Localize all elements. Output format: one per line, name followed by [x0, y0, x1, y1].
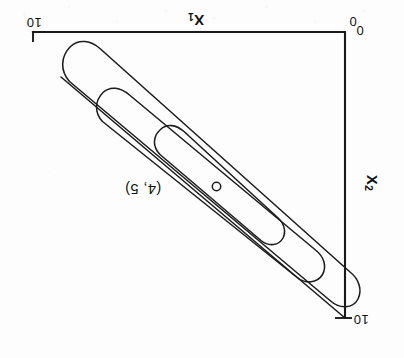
x2-axis-label-subscript: 2	[363, 185, 374, 191]
x2-max-tick-label: 10	[353, 312, 368, 327]
svg-text:(4, 5): (4, 5)	[125, 181, 161, 197]
svg-text:10: 10	[26, 15, 41, 30]
figure-canvas: X1 X2 10 0 0 10 (4, 5)	[0, 0, 404, 358]
x1-axis-label-subscript: 1	[188, 11, 194, 22]
contours-group	[61, 41, 360, 318]
svg-text:X1: X1	[188, 11, 204, 29]
x2-axis-label-text: X	[364, 175, 381, 185]
x2-axis-label: X2	[363, 175, 381, 191]
x2-origin-tick-label: 0	[356, 23, 364, 38]
optimum-point-marker	[212, 182, 220, 190]
optimum-point-label: (4, 5)	[125, 181, 161, 197]
axes-group	[33, 32, 352, 318]
constraint-line	[61, 77, 345, 318]
x1-max-tick-label: 10	[26, 15, 41, 30]
svg-text:10: 10	[353, 312, 368, 327]
x1-axis-label-text: X	[194, 12, 204, 29]
contour-inner	[154, 126, 284, 245]
contour-plot-figure: X1 X2 10 0 0 10 (4, 5)	[0, 0, 404, 358]
x1-axis-label: X1	[188, 11, 204, 29]
contour-outer	[63, 41, 360, 306]
svg-text:X2: X2	[363, 175, 381, 191]
svg-text:0: 0	[349, 14, 357, 29]
x1-origin-tick-label: 0	[349, 14, 357, 29]
svg-text:0: 0	[356, 23, 364, 38]
